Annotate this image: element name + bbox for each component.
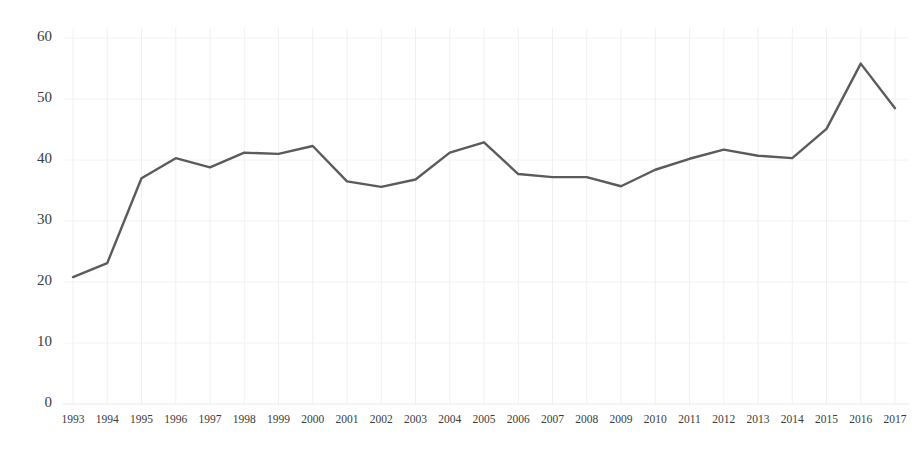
y-tick-label: 50 [37,89,52,105]
x-tick-label: 1998 [233,413,256,425]
x-axis-tick-labels: 1993199419951996199719981999200020012002… [62,413,907,425]
x-tick-label: 2003 [404,413,427,425]
y-axis-tick-labels: 0102030405060 [37,28,52,410]
y-tick-label: 60 [37,28,52,44]
x-tick-label: 2001 [336,413,359,425]
x-tick-label: 2002 [370,413,393,425]
chart-canvas: 0102030405060 19931994199519961997199819… [0,0,912,457]
x-tick-label: 1993 [62,413,85,425]
x-tick-label: 2004 [438,413,461,425]
x-tick-label: 2008 [575,413,598,425]
horizontal-gridlines [65,38,909,343]
x-tick-label: 2009 [610,413,633,425]
x-tick-label: 2005 [473,413,496,425]
x-tick-label: 1995 [130,413,153,425]
x-tick-label: 2016 [849,413,872,425]
y-tick-label: 20 [37,272,52,288]
x-tick-label: 2000 [301,413,324,425]
x-tick-label: 2007 [541,413,564,425]
x-tick-label: 2014 [781,413,804,425]
x-tick-label: 2015 [815,413,838,425]
x-tick-label: 2017 [884,413,907,425]
x-tick-label: 1994 [96,413,119,425]
x-tick-label: 2012 [712,413,735,425]
line-chart: 0102030405060 19931994199519961997199819… [0,0,912,457]
x-tick-label: 1996 [164,413,187,425]
y-tick-label: 30 [37,211,52,227]
x-tick-label: 2013 [747,413,770,425]
x-tick-label: 1999 [267,413,290,425]
y-tick-label: 10 [37,333,52,349]
x-tick-label: 1997 [199,413,222,425]
x-tick-label: 2010 [644,413,667,425]
y-tick-label: 0 [45,394,53,410]
vertical-gridlines [73,28,895,404]
x-tick-label: 2011 [678,413,701,425]
plot-area: 0102030405060 19931994199519961997199819… [0,0,912,457]
y-tick-label: 40 [37,150,52,166]
x-tick-label: 2006 [507,413,530,425]
